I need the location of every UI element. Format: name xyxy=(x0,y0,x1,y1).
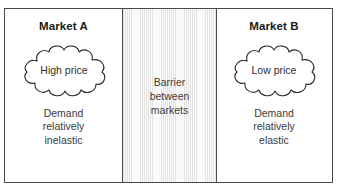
description-line-3: elastic xyxy=(253,134,294,148)
panel-market-b: Market B Low price Demand relatively ela… xyxy=(217,9,331,182)
cloud-low-price: Low price xyxy=(217,43,331,99)
panel-market-b-description: Demand relatively elastic xyxy=(253,107,294,148)
description-line-1: Demand xyxy=(43,107,84,121)
cloud-shape-icon: Low price xyxy=(227,43,321,99)
cloud-shape-icon: High price xyxy=(17,43,111,99)
panel-market-a-description: Demand relatively inelastic xyxy=(43,107,84,148)
diagram-frame: Market A High price Demand relatively in… xyxy=(4,8,333,183)
cloud-low-price-label: Low price xyxy=(252,64,297,76)
cloud-high-price: High price xyxy=(5,43,122,99)
description-line-3: inelastic xyxy=(43,134,84,148)
barrier-line-3: markets xyxy=(150,103,190,117)
barrier-line-1: Barrier xyxy=(150,75,190,89)
description-line-1: Demand xyxy=(253,107,294,121)
barrier-line-2: between xyxy=(150,89,190,103)
panel-market-a-title: Market A xyxy=(39,21,88,33)
panel-barrier: Barrier between markets xyxy=(123,9,217,182)
cloud-high-price-label: High price xyxy=(40,64,87,76)
panel-market-b-title: Market B xyxy=(249,21,298,33)
description-line-2: relatively xyxy=(43,120,84,134)
barrier-label: Barrier between markets xyxy=(150,75,190,117)
market-separation-diagram: Market A High price Demand relatively in… xyxy=(0,0,343,192)
description-line-2: relatively xyxy=(253,120,294,134)
panel-market-a: Market A High price Demand relatively in… xyxy=(5,9,123,182)
